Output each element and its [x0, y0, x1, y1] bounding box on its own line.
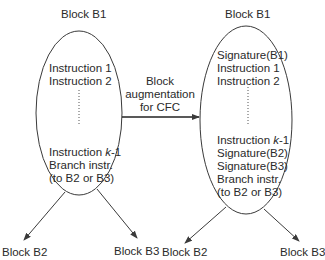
left-k-prefix: Instruction: [49, 146, 105, 158]
augmentation-label-line2: augmentation: [124, 88, 196, 101]
left-arrow-to-b2: [24, 192, 65, 240]
right-line-signature-b2: Signature(B2): [217, 147, 289, 160]
right-k-suffix: -1: [279, 134, 289, 146]
left-block-title: Block B1: [61, 8, 106, 21]
right-block-contents: Signature(B1) Instruction 1 Instruction …: [217, 49, 289, 199]
right-line-signature-b1: Signature(B1): [217, 49, 289, 62]
right-arrow-to-b3: [264, 209, 299, 241]
left-line-instruction-k: Instruction k-1: [49, 146, 121, 159]
left-k-suffix: -1: [111, 146, 121, 158]
left-line-instruction-1: Instruction 1: [49, 62, 121, 75]
left-arrow-to-b3: [97, 189, 137, 238]
right-successor-b3: Block B3: [280, 246, 325, 259]
right-line-branch: Branch instr.: [217, 173, 289, 186]
right-arrow-to-b2: [185, 207, 226, 243]
right-line-instruction-k: Instruction k-1: [217, 134, 289, 147]
right-line-signature-b3: Signature(B3): [217, 160, 289, 173]
augmentation-label-line3: for CFC: [124, 101, 196, 114]
left-line-instruction-2: Instruction 2: [49, 75, 121, 88]
left-successor-b3: Block B3: [114, 245, 159, 258]
augmentation-label-line1: Block: [124, 75, 196, 88]
right-line-targets: (to B2 or B3): [217, 186, 289, 199]
left-successor-b2: Block B2: [2, 246, 47, 259]
left-block-contents: Instruction 1 Instruction 2 Instruction …: [49, 62, 121, 185]
right-k-prefix: Instruction: [217, 134, 273, 146]
right-successor-b2: Block B2: [162, 246, 207, 259]
left-line-targets: (to B2 or B3): [49, 172, 121, 185]
right-block-title: Block B1: [225, 8, 270, 21]
right-line-instruction-1: Instruction 1: [217, 62, 289, 75]
augmentation-label: Block augmentation for CFC: [124, 75, 196, 114]
left-line-branch: Branch instr.: [49, 159, 121, 172]
right-line-instruction-2: Instruction 2: [217, 75, 289, 88]
